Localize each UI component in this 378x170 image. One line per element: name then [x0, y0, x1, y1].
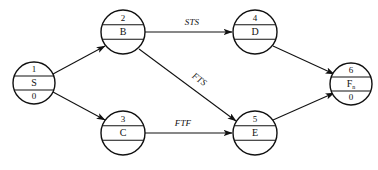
- node-3[interactable]: 3C: [101, 111, 145, 155]
- node-id-2: 2: [121, 13, 126, 23]
- node-name-4: D: [251, 26, 258, 37]
- node-duration-1: 0: [32, 91, 37, 101]
- edge-4-to-6: [273, 46, 334, 74]
- node-duration-6: 0: [349, 92, 354, 102]
- edge-1-to-3: [53, 92, 105, 120]
- network-diagram-svg: 1S02B3C4D5E6Fn0 STSFTSFTF: [0, 0, 378, 170]
- node-2[interactable]: 2B: [101, 10, 145, 54]
- edges-layer: [53, 32, 334, 133]
- node-4[interactable]: 4D: [233, 10, 277, 54]
- node-5[interactable]: 5E: [233, 111, 277, 155]
- node-name-3: C: [120, 127, 127, 138]
- edge-5-to-6: [273, 93, 334, 120]
- node-name-1: S: [31, 77, 37, 88]
- node-id-4: 4: [253, 13, 258, 23]
- node-1[interactable]: 1S0: [13, 62, 55, 104]
- network-diagram-canvas: 1S02B3C4D5E6Fn0 STSFTSFTF: [0, 0, 378, 170]
- edge-2-to-5: [139, 49, 236, 121]
- node-id-3: 3: [121, 114, 126, 124]
- node-6[interactable]: 6Fn0: [330, 63, 372, 105]
- edge-label-sts-2-4: STS: [185, 17, 200, 27]
- node-name-2: B: [120, 26, 127, 37]
- edge-label-ftf-3-5: FTF: [174, 118, 192, 128]
- edge-labels-layer: STSFTSFTF: [174, 17, 209, 128]
- node-id-5: 5: [253, 114, 258, 124]
- edge-label-fts-2-5: FTS: [189, 70, 209, 88]
- node-name-5: E: [252, 127, 258, 138]
- node-id-6: 6: [349, 65, 354, 75]
- node-id-1: 1: [32, 64, 37, 74]
- edge-1-to-2: [53, 46, 105, 74]
